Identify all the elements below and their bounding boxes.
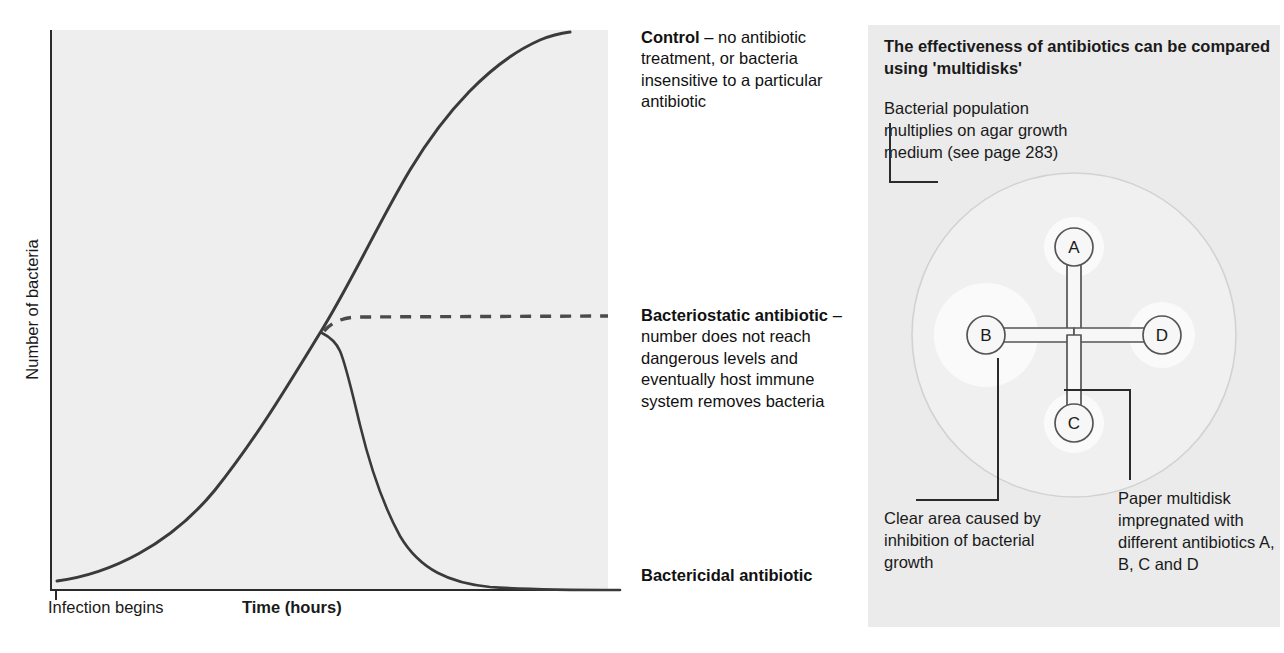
x-axis-label: Time (hours) [242, 598, 342, 617]
bacterial-growth-chart: Number of bacteria Infection begins Time… [0, 0, 640, 653]
disc-label-b: B [980, 326, 991, 345]
bacteriostatic-curve [324, 316, 608, 331]
multidisk-panel: The effectiveness of antibiotics can be … [868, 25, 1280, 627]
caption-clear-area: Clear area caused by inhibition of bacte… [884, 507, 1064, 573]
control-curve [57, 32, 570, 581]
caption-paper-multidisk: Paper multidisk impregnated with differe… [1118, 487, 1278, 575]
disc-label-d: D [1156, 326, 1168, 345]
growth-curves [0, 0, 640, 653]
figure-root: Number of bacteria Infection begins Time… [0, 0, 1284, 653]
disc-label-c: C [1068, 414, 1080, 433]
annotation-bacteriostatic-lead: Bacteriostatic antibiotic [641, 306, 828, 324]
annotation-control-lead: Control [641, 28, 700, 46]
leader-line-agar [890, 123, 938, 182]
bactericidal-curve [322, 333, 620, 590]
y-axis-label: Number of bacteria [23, 200, 42, 420]
disc-label-a: A [1068, 238, 1080, 257]
annotation-control: Control – no antibiotic treatment, or ba… [641, 27, 851, 113]
annotation-bactericidal: Bactericidal antibiotic [641, 565, 861, 586]
x-axis-origin-label: Infection begins [48, 598, 164, 617]
annotation-bacteriostatic: Bacteriostatic antibiotic – number does … [641, 305, 856, 412]
